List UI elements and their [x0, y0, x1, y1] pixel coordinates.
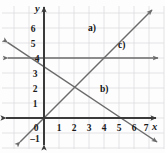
x-tick-5: 5 [117, 123, 122, 133]
x-axis-label: x [151, 121, 157, 132]
y-tick-neg1: –1 [29, 134, 40, 144]
y-tick-2: 2 [33, 84, 38, 94]
y-tick-3: 3 [33, 69, 38, 79]
coordinate-plot-svg: x y 6 5 4 3 2 1 0 –1 1 2 3 4 5 6 7 a) b)… [0, 0, 165, 153]
line-label-b: b) [100, 84, 108, 95]
line-label-a: a) [88, 23, 96, 34]
y-tick-4: 4 [35, 54, 40, 64]
coordinate-graph-figure: x y 6 5 4 3 2 1 0 –1 1 2 3 4 5 6 7 a) b)… [0, 0, 165, 153]
y-tick-1: 1 [33, 99, 38, 109]
line-label-c: c) [118, 40, 125, 51]
x-tick-7: 7 [144, 123, 149, 133]
y-axis-label: y [33, 3, 40, 14]
x-tick-3: 3 [87, 123, 92, 133]
x-tick-1: 1 [57, 123, 62, 133]
x-tick-2: 2 [72, 123, 77, 133]
x-tick-4: 4 [102, 123, 107, 133]
origin-label: 0 [34, 123, 39, 133]
x-tick-6: 6 [132, 123, 137, 133]
y-tick-5: 5 [31, 39, 36, 49]
y-tick-6: 6 [31, 24, 36, 34]
